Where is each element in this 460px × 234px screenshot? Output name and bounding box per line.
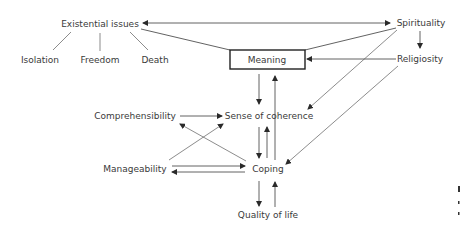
edge-coping-comprehensibility	[180, 124, 246, 161]
node-coping: Coping	[252, 164, 283, 174]
edge-existential-isolation	[53, 32, 71, 50]
node-quality-of-life: Quality of life	[238, 210, 299, 220]
cropped-text-fragment	[458, 212, 460, 215]
edge-spirituality-soc	[308, 30, 397, 109]
node-sense-of-coherence: Sense of coherence	[225, 111, 314, 121]
edge-manageability-soc	[169, 124, 223, 160]
edge-existential-meaning	[141, 29, 230, 50]
node-comprehensibility: Comprehensibility	[94, 111, 176, 121]
node-spirituality: Spirituality	[397, 18, 446, 28]
cropped-text-fragment	[458, 201, 460, 204]
meaning-coping-diagram: Existential issues Isolation Freedom Dea…	[0, 0, 460, 234]
node-death: Death	[141, 55, 168, 65]
node-freedom: Freedom	[80, 55, 119, 65]
node-isolation: Isolation	[21, 55, 59, 65]
node-religiosity: Religiosity	[397, 54, 444, 64]
edge-existential-death	[130, 32, 148, 50]
node-existential-issues: Existential issues	[61, 19, 139, 29]
node-meaning: Meaning	[248, 55, 286, 65]
edge-spirituality-meaning	[305, 28, 396, 50]
node-manageability: Manageability	[103, 164, 167, 174]
